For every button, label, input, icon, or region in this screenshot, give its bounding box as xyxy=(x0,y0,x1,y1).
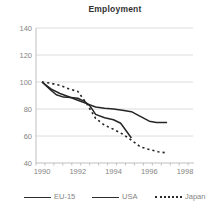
japan-line-sample-icon xyxy=(155,196,182,198)
svg-text:1994: 1994 xyxy=(105,167,122,176)
legend-label-eu15: EU-15 xyxy=(54,191,75,203)
legend-item-eu15: EU-15 xyxy=(24,191,75,203)
employment-plot-area: 14012010080604019901992199419961998 xyxy=(0,0,224,206)
legend-item-japan: Japan xyxy=(155,191,205,203)
chart-legend: EU-15 USA Japan xyxy=(0,191,224,205)
svg-text:1990: 1990 xyxy=(34,167,51,176)
svg-text:40: 40 xyxy=(24,159,32,168)
svg-text:1998: 1998 xyxy=(177,167,194,176)
svg-text:1996: 1996 xyxy=(141,167,158,176)
svg-text:120: 120 xyxy=(19,51,32,60)
legend-item-usa: USA xyxy=(92,191,137,203)
employment-chart: Employment 14012010080604019901992199419… xyxy=(0,0,224,206)
svg-text:1992: 1992 xyxy=(69,167,86,176)
svg-text:140: 140 xyxy=(19,24,32,33)
svg-text:60: 60 xyxy=(24,132,32,141)
legend-label-japan: Japan xyxy=(185,191,205,203)
eu15-line-sample-icon xyxy=(24,197,51,198)
usa-line-sample-icon xyxy=(92,197,119,198)
svg-text:80: 80 xyxy=(24,105,32,114)
legend-label-usa: USA xyxy=(122,191,137,203)
svg-text:100: 100 xyxy=(19,78,32,87)
